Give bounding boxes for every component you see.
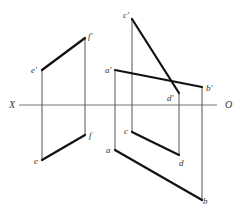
label-f: f: [89, 130, 93, 140]
axis-label-o: O: [225, 99, 232, 110]
segment-c-d: [132, 132, 179, 155]
projection-diagram: X O e' f' e f c' a' b' d' c a d b: [0, 0, 243, 213]
label-f-prime: f': [88, 31, 94, 41]
label-d-prime: d': [167, 93, 175, 103]
segment-a-prime-b-prime: [115, 70, 202, 87]
axis-label-x: X: [8, 99, 16, 110]
label-d: d: [179, 158, 184, 168]
segment-a-b: [115, 150, 202, 200]
label-a-prime: a': [105, 65, 113, 75]
segment-e-f: [42, 135, 85, 160]
label-c-prime: c': [123, 10, 130, 20]
label-e: e: [34, 156, 38, 166]
label-a: a: [106, 145, 111, 155]
label-c: c: [124, 126, 128, 136]
label-e-prime: e': [31, 65, 38, 75]
label-b-prime: b': [206, 83, 214, 93]
label-b: b: [203, 196, 208, 206]
segment-e-prime-f-prime: [42, 38, 85, 70]
